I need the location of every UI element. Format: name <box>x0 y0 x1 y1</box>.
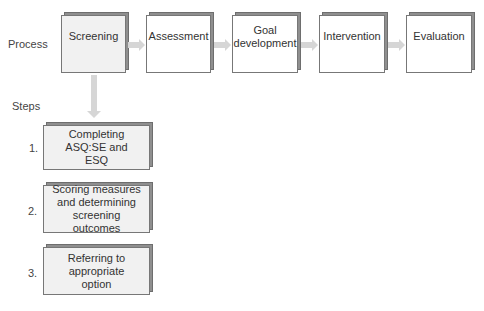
step-box-label: Completing ASQ:SE and ESQ <box>43 125 150 170</box>
arrow-right-icon <box>128 42 140 48</box>
process-box-intervention: Intervention <box>319 15 385 73</box>
steps-label: Steps <box>12 100 40 112</box>
process-box-goal-development: Goal development <box>232 15 298 73</box>
process-box-assessment: Assessment <box>146 15 211 73</box>
process-label: Process <box>8 38 48 50</box>
process-box-label: Evaluation <box>406 15 472 73</box>
process-box-label: Goal development <box>232 15 298 73</box>
step-box-2: Scoring measures and determining screeni… <box>43 185 150 233</box>
step-box-label: Scoring measures and determining screeni… <box>43 185 150 233</box>
arrow-right-icon <box>214 42 226 48</box>
process-box-screening: Screening <box>61 15 126 73</box>
arrow-right-icon <box>388 42 400 48</box>
process-box-label: Assessment <box>146 15 211 73</box>
step-number: 2. <box>28 205 37 217</box>
step-number: 3. <box>28 267 37 279</box>
step-box-1: Completing ASQ:SE and ESQ <box>43 125 150 170</box>
step-box-label: Referring to appropriate option <box>43 247 150 295</box>
arrow-right-icon <box>301 42 313 48</box>
process-box-label: Intervention <box>319 15 385 73</box>
arrow-down-icon <box>91 75 97 112</box>
step-box-3: Referring to appropriate option <box>43 247 150 295</box>
process-box-label: Screening <box>61 15 126 73</box>
process-box-evaluation: Evaluation <box>406 15 472 73</box>
step-number: 1. <box>29 142 38 154</box>
